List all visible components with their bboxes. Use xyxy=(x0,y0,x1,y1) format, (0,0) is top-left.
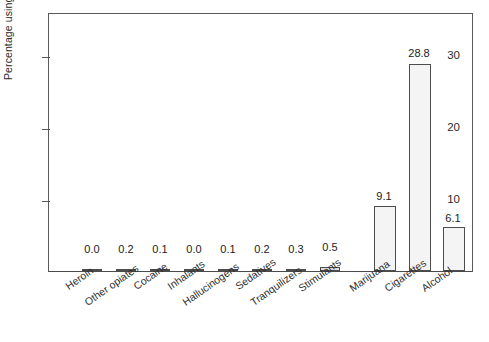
value-label-sedatives: 0.2 xyxy=(254,243,269,255)
y-tick-label-20: 20 xyxy=(434,121,460,133)
value-label-tranquilizers: 0.3 xyxy=(288,243,303,255)
value-label-hallucinogens: 0.1 xyxy=(220,243,235,255)
value-label-marijuana: 9.1 xyxy=(376,190,391,202)
bar-chart: Percentage using daily 30 20 10 0.0 0.2 … xyxy=(0,0,489,342)
y-tick-20 xyxy=(42,129,50,130)
y-tick-label-30: 30 xyxy=(434,49,460,61)
value-label-cigarettes: 28.8 xyxy=(408,47,429,59)
value-label-alcohol: 6.1 xyxy=(445,212,460,224)
y-tick-label-10: 10 xyxy=(434,193,460,205)
value-label-cocaine: 0.1 xyxy=(152,243,167,255)
value-label-other-opiates: 0.2 xyxy=(118,243,133,255)
value-label-stimulants: 0.5 xyxy=(322,241,337,253)
y-tick-30 xyxy=(42,57,50,58)
bar-cigarettes xyxy=(409,64,431,271)
y-axis-title: Percentage using daily xyxy=(2,0,16,80)
y-tick-10 xyxy=(42,201,50,202)
value-label-heroin: 0.0 xyxy=(84,243,99,255)
value-label-inhalants: 0.0 xyxy=(186,243,201,255)
